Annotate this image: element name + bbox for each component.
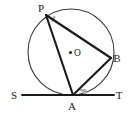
segment-pa [46, 15, 73, 95]
geometry-figure: P B A O S T [0, 0, 129, 115]
center-point-dot [69, 51, 72, 54]
label-b: B [113, 52, 120, 64]
label-a: A [68, 100, 76, 112]
label-s: S [11, 89, 17, 101]
geometry-canvas: P B A O S T [0, 0, 129, 115]
label-o: O [74, 48, 81, 58]
label-p: P [38, 2, 44, 14]
label-t: T [116, 89, 123, 101]
